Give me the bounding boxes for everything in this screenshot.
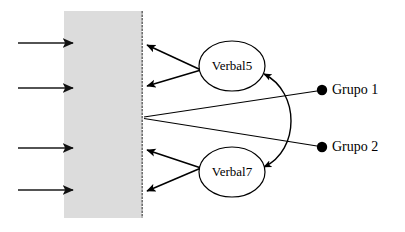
- grupo2-dot[interactable]: [317, 142, 327, 152]
- diagram-canvas: Verbal5 Verbal7 Grupo 1 Grupo 2: [0, 0, 405, 232]
- loading-path-verbal5-a: [147, 45, 201, 70]
- sem-path-diagram: Verbal5 Verbal7 Grupo 1 Grupo 2: [0, 0, 405, 232]
- loading-path-verbal7-b: [147, 168, 201, 191]
- grupo1-label: Grupo 1: [332, 82, 378, 97]
- grupo1-dot[interactable]: [317, 85, 327, 95]
- loading-path-verbal7-a: [147, 150, 201, 168]
- latent-node-verbal7-label: Verbal7: [212, 164, 253, 179]
- loading-path-verbal5-b: [147, 70, 201, 86]
- grupo2-label: Grupo 2: [332, 139, 378, 154]
- latent-node-verbal5-label: Verbal5: [212, 58, 252, 73]
- correlation-arc-verbal5-verbal7: [264, 74, 291, 167]
- measurement-panel: [64, 11, 142, 218]
